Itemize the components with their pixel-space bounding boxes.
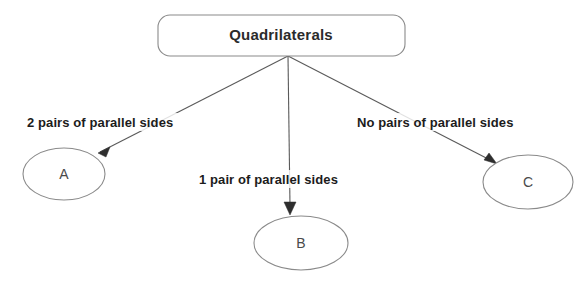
edge-root-to-b [284,56,296,215]
node-a[interactable]: A [23,148,105,200]
edge-root-to-a [98,56,288,157]
edge-label-root-to-c: No pairs of parallel sides [354,113,556,131]
arrowhead-to-a [98,147,110,157]
node-a-label: A [59,166,69,182]
edge-label-a-text: 2 pairs of parallel sides [27,115,173,130]
edge-line-root-to-c [288,56,494,162]
node-b[interactable]: B [254,216,348,270]
edge-label-root-to-a: 2 pairs of parallel sides [24,113,214,131]
arrowhead-to-c [484,153,497,164]
node-root-quadrilaterals[interactable]: Quadrilaterals [158,15,405,56]
edge-label-root-to-b: 1 pair of parallel sides [196,170,374,188]
quadrilaterals-classification-diagram: Quadrilaterals A B C 2 pairs of parallel… [0,0,587,293]
edge-root-to-c [288,56,497,164]
node-b-label: B [296,235,305,251]
edge-label-b-text: 1 pair of parallel sides [199,172,338,187]
node-c[interactable]: C [483,155,573,209]
edge-label-c-text: No pairs of parallel sides [357,115,514,130]
diagram-canvas: Quadrilaterals A B C 2 pairs of parallel… [0,0,587,293]
root-node-label: Quadrilaterals [229,26,333,43]
edge-line-root-to-a [100,56,288,152]
node-c-label: C [523,174,533,190]
arrowhead-to-b [284,202,296,215]
